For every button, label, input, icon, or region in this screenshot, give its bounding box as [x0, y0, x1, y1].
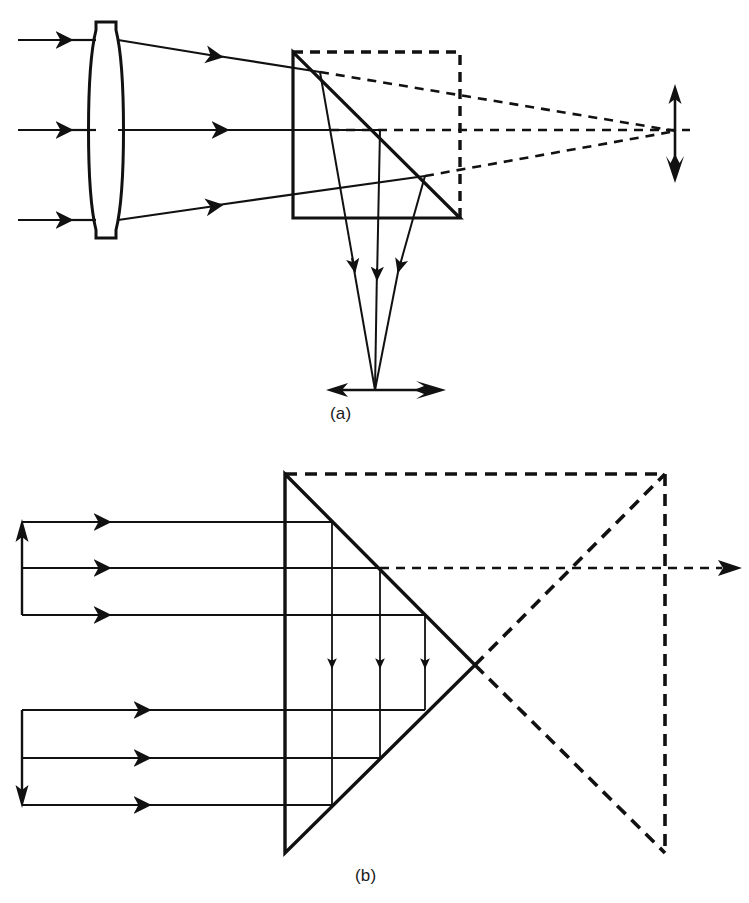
right-angle-prism: [293, 52, 460, 218]
entering-rays-b: [22, 522, 425, 615]
virtual-rays-a: [320, 72, 690, 176]
panel-a-group: [18, 22, 690, 399]
optics-figure: [0, 0, 749, 903]
real-image-arrow: [326, 381, 446, 399]
figure-page: (a) (b): [0, 0, 749, 903]
folded-rays-a: [320, 72, 425, 390]
panel-b-group: [16, 474, 743, 853]
optical-axis-b: [380, 560, 742, 576]
incoming-rays-a: [18, 40, 96, 220]
panel-label-a: (a): [330, 404, 351, 424]
panel-label-b: (b): [355, 866, 376, 886]
exiting-rays-b: [22, 710, 425, 805]
